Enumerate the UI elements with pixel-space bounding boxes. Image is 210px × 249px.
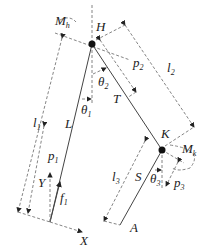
label-hip: H xyxy=(95,19,106,34)
label-p2: p2 xyxy=(132,55,144,72)
label-S: S xyxy=(135,169,142,184)
p1-dimension xyxy=(28,126,44,213)
label-X: X xyxy=(79,233,89,248)
label-hip-moment: Mh xyxy=(54,13,70,30)
segment-T xyxy=(92,44,162,150)
foot-base xyxy=(18,212,50,222)
label-knee-moment: Mk xyxy=(181,141,197,158)
l2-dimension xyxy=(125,25,194,127)
label-l2: l2 xyxy=(167,60,175,77)
label-theta2: θ2 xyxy=(98,74,108,91)
label-L: L xyxy=(64,116,72,131)
p2-ext xyxy=(127,92,136,98)
label-A: A xyxy=(129,220,138,235)
label-theta1: θ1 xyxy=(81,102,91,119)
l3-ext xyxy=(104,221,120,225)
f1-arrow xyxy=(50,182,60,222)
label-T: T xyxy=(113,91,121,106)
label-l1: l1 xyxy=(33,115,41,132)
hip-joint xyxy=(89,41,96,48)
label-Y: Y xyxy=(38,175,47,190)
biomechanics-diagram: Mh H K Mk l2 p2 T θ2 θ1 l1 L p1 Y f1 X l… xyxy=(0,0,210,249)
x-axis xyxy=(50,222,82,232)
label-p3: p3 xyxy=(173,175,185,192)
knee-joint xyxy=(159,147,166,154)
label-p1: p1 xyxy=(47,148,59,165)
label-theta3: θ3 xyxy=(150,171,160,188)
label-f1: f1 xyxy=(60,190,68,207)
knee-perp-reference xyxy=(162,150,184,163)
label-l3: l3 xyxy=(112,169,120,186)
label-knee: K xyxy=(160,126,171,141)
